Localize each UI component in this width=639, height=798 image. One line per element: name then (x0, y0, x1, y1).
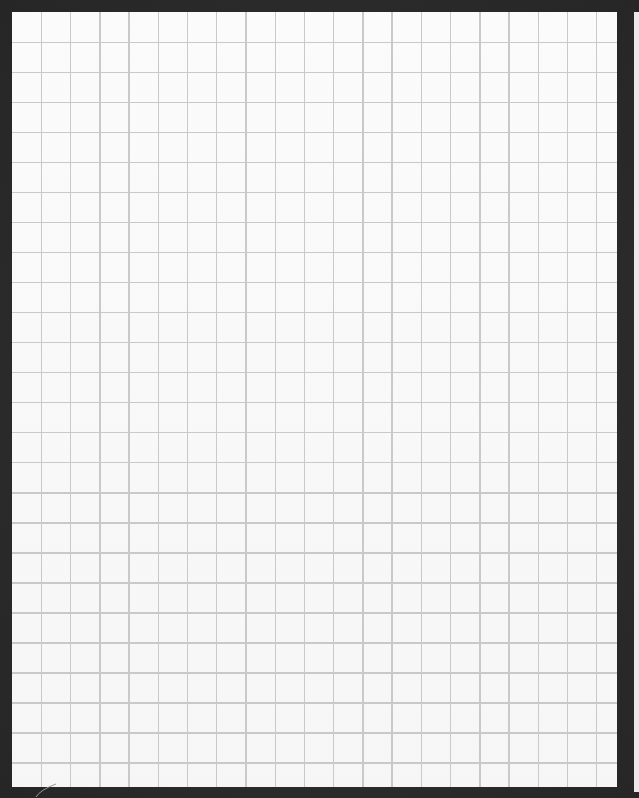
grid-line-vertical (333, 12, 334, 787)
grid-line-vertical (538, 12, 539, 787)
grid-line-vertical (245, 12, 246, 787)
grid-line-horizontal (12, 192, 617, 193)
grid-line-vertical (304, 12, 305, 787)
grid-line-vertical (450, 12, 451, 787)
grid-line-vertical (70, 12, 71, 787)
grid-line-vertical (596, 12, 597, 787)
grid-line-horizontal (12, 732, 617, 733)
grid-line-vertical (158, 12, 159, 787)
grid-line-vertical (421, 12, 422, 787)
grid-line-horizontal (12, 492, 617, 493)
grid-line-horizontal (12, 372, 617, 373)
grid-line-horizontal (12, 312, 617, 313)
scratch-mark (30, 778, 60, 798)
grid-line-horizontal (12, 132, 617, 133)
grid-line-horizontal (12, 222, 617, 223)
grid-line-vertical (567, 12, 568, 787)
graph-paper-sheet (12, 12, 617, 787)
grid-line-horizontal (12, 642, 617, 643)
grid-line-horizontal (12, 582, 617, 583)
grid-line-horizontal (12, 762, 617, 763)
grid-line-horizontal (12, 432, 617, 433)
grid-line-horizontal (12, 102, 617, 103)
grid-line-vertical (275, 12, 276, 787)
grid-line-vertical (362, 12, 363, 787)
grid-line-horizontal (12, 672, 617, 673)
grid-line-horizontal (12, 462, 617, 463)
grid-line-vertical (41, 12, 42, 787)
grid-line-vertical (128, 12, 129, 787)
grid-line-horizontal (12, 522, 617, 523)
grid-line-horizontal (12, 42, 617, 43)
grid-line-horizontal (12, 252, 617, 253)
grid-line-vertical (216, 12, 217, 787)
grid-line-horizontal (12, 342, 617, 343)
grid-line-vertical (479, 12, 480, 787)
grid-line-vertical (99, 12, 100, 787)
edge-strip (634, 12, 639, 792)
grid-line-horizontal (12, 612, 617, 613)
grid-line-vertical (508, 12, 509, 787)
grid-line-vertical (187, 12, 188, 787)
grid-line-horizontal (12, 282, 617, 283)
grid-line-horizontal (12, 402, 617, 403)
grid-line-horizontal (12, 702, 617, 703)
grid-line-horizontal (12, 552, 617, 553)
grid-line-horizontal (12, 162, 617, 163)
grid-line-vertical (391, 12, 392, 787)
grid-line-horizontal (12, 72, 617, 73)
